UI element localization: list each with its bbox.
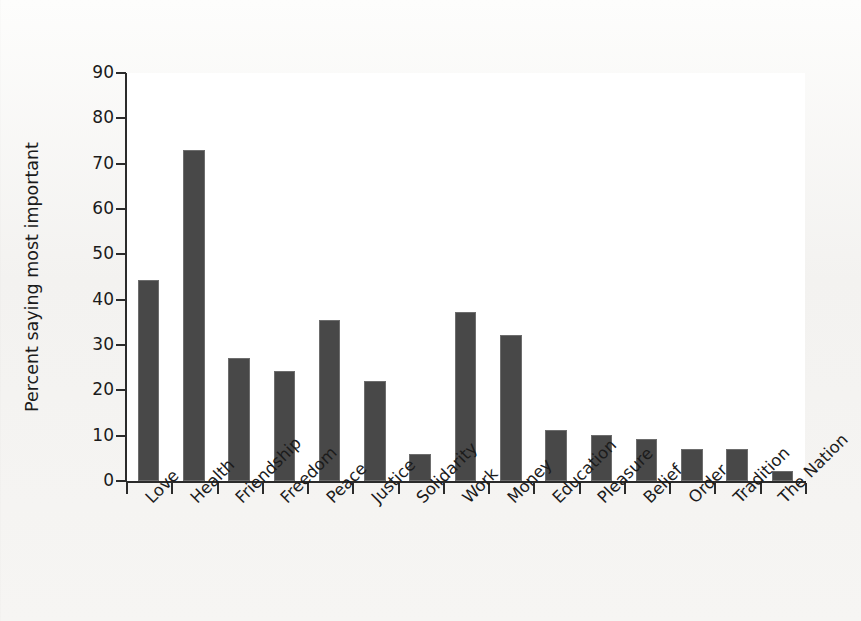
y-axis-tick (116, 163, 126, 165)
y-axis-title: Percent saying most important (20, 73, 44, 481)
y-axis-tick (116, 208, 126, 210)
bar (364, 381, 386, 481)
bar (726, 449, 748, 481)
y-axis-tick (116, 389, 126, 391)
y-axis-tick (116, 253, 126, 255)
y-axis-tick (116, 72, 126, 74)
y-axis-tick (116, 117, 126, 119)
bar (681, 449, 703, 481)
bar (500, 335, 522, 481)
y-axis-tick (116, 480, 126, 482)
y-axis-tick (116, 435, 126, 437)
y-axis-tick (116, 299, 126, 301)
bar (183, 150, 205, 481)
chart-page: 0102030405060708090 Percent saying most … (0, 0, 861, 621)
x-axis-tick-labels: LoveHealthFriendshipFreedomPeaceJusticeS… (0, 489, 861, 621)
y-axis-title-wrapper: Percent saying most important (84, 73, 108, 481)
bar (138, 280, 160, 481)
y-axis-tick (116, 344, 126, 346)
bars-layer (126, 73, 805, 481)
